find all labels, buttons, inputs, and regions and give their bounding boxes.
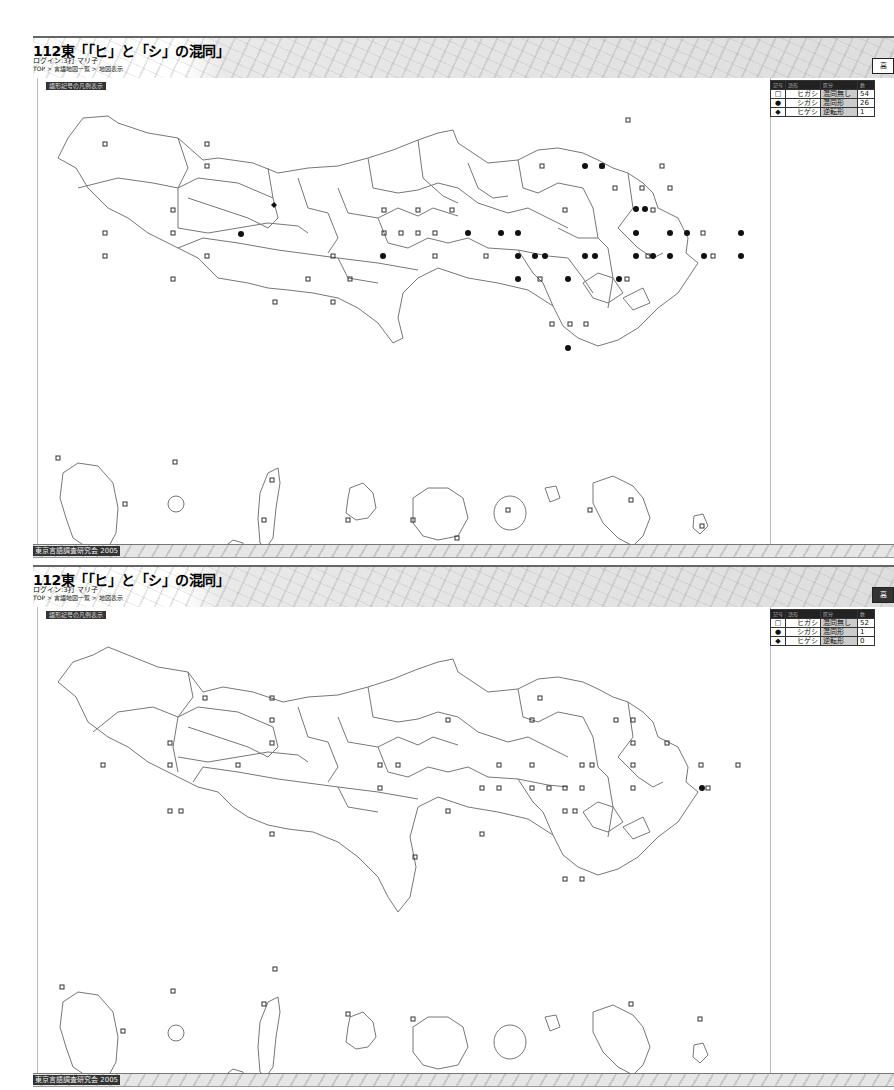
legend-form: シガシ: [786, 628, 821, 637]
login-info: ログイン:3打 マリ子: [33, 586, 98, 594]
legend-row: ● シガシ 混同形 26: [771, 99, 875, 108]
survey-points-confusion: [699, 785, 705, 791]
open-square-icon: □: [771, 90, 786, 99]
login-info: ログイン:3打 マリ子: [33, 57, 98, 65]
legend-count: 1: [858, 108, 875, 117]
legend-form: ヒガシ: [786, 619, 821, 628]
legend-count: 26: [858, 99, 875, 108]
legend-row: □ ヒガシ 混同無し 52: [771, 619, 875, 628]
page-footer: 東京言語調査研究会 2005: [33, 1073, 894, 1087]
open-square-icon: □: [771, 619, 786, 628]
legend-category: 混同形: [821, 99, 858, 108]
legend-table: 記号 語形 区分 数 □ ヒガシ 混同無し 54 ● シガシ 混同形 26 ◆ …: [770, 80, 875, 117]
legend-header: 数: [858, 610, 875, 619]
header-button[interactable]: 高: [872, 58, 894, 74]
legend-header: 記号: [771, 81, 786, 90]
page-footer: 東京言語調査研究会 2005: [33, 544, 894, 558]
survey-points-no-confusion: [56, 118, 715, 544]
legend-header: 区分: [821, 610, 858, 619]
legend-category: 逆転形: [821, 108, 858, 117]
legend-form: ヒゲシ: [786, 108, 821, 117]
legend-category: 逆転形: [821, 637, 858, 646]
legend-header: 語形: [786, 81, 821, 90]
header-button[interactable]: 高: [872, 587, 894, 603]
map-panel-1: 112東「「ヒ」と「シ」の混同」 ログイン:3打 マリ子 TOP > 言語地図一…: [33, 36, 894, 558]
legend-row: ● シガシ 混同形 1: [771, 628, 875, 637]
map-area[interactable]: 語形記号の凡例表示: [37, 607, 771, 1073]
survey-points-confusion: [238, 163, 744, 351]
legend-count: 1: [858, 628, 875, 637]
filled-diamond-icon: ◆: [771, 637, 786, 646]
legend-count: 54: [858, 90, 875, 99]
legend-row: ◆ ヒゲシ 逆転形 1: [771, 108, 875, 117]
legend-header: 区分: [821, 81, 858, 90]
copyright-text: 東京言語調査研究会 2005: [33, 546, 120, 556]
breadcrumb[interactable]: TOP > 言語地図一覧 > 地図表示: [33, 65, 123, 72]
survey-points-no-confusion: [60, 696, 740, 1073]
tokyo-map: [38, 78, 770, 544]
map-area[interactable]: 語形記号の凡例表示: [37, 78, 771, 544]
legend-category: 混同無し: [821, 90, 858, 99]
legend-form: ヒガシ: [786, 90, 821, 99]
page-header: 112東「「ヒ」と「シ」の混同」 ログイン:3打 マリ子 TOP > 言語地図一…: [33, 36, 894, 80]
legend-count: 52: [858, 619, 875, 628]
legend-header: 数: [858, 81, 875, 90]
legend-category: 混同形: [821, 628, 858, 637]
legend-header: 語形: [786, 610, 821, 619]
tokyo-map: [38, 607, 770, 1073]
legend-row: □ ヒガシ 混同無し 54: [771, 90, 875, 99]
map-legend-toggle[interactable]: 語形記号の凡例表示: [46, 82, 106, 90]
filled-circle-icon: ●: [771, 99, 786, 108]
page-header: 112東「「ヒ」と「シ」の混同」 ログイン:3打 マリ子 TOP > 言語地図一…: [33, 565, 894, 609]
legend-count: 0: [858, 637, 875, 646]
survey-points-reversal: [271, 202, 277, 208]
map-legend-toggle[interactable]: 語形記号の凡例表示: [46, 611, 106, 619]
filled-circle-icon: ●: [771, 628, 786, 637]
breadcrumb[interactable]: TOP > 言語地図一覧 > 地図表示: [33, 594, 123, 601]
filled-diamond-icon: ◆: [771, 108, 786, 117]
legend-form: シガシ: [786, 99, 821, 108]
legend-row: ◆ ヒゲシ 逆転形 0: [771, 637, 875, 646]
map-panel-2: 112東「「ヒ」と「シ」の混同」 ログイン:3打 マリ子 TOP > 言語地図一…: [33, 565, 894, 1087]
legend-table: 記号 語形 区分 数 □ ヒガシ 混同無し 52 ● シガシ 混同形 1 ◆ ヒ…: [770, 609, 875, 646]
copyright-text: 東京言語調査研究会 2005: [33, 1075, 120, 1085]
legend-form: ヒゲシ: [786, 637, 821, 646]
legend-category: 混同無し: [821, 619, 858, 628]
legend-header: 記号: [771, 610, 786, 619]
